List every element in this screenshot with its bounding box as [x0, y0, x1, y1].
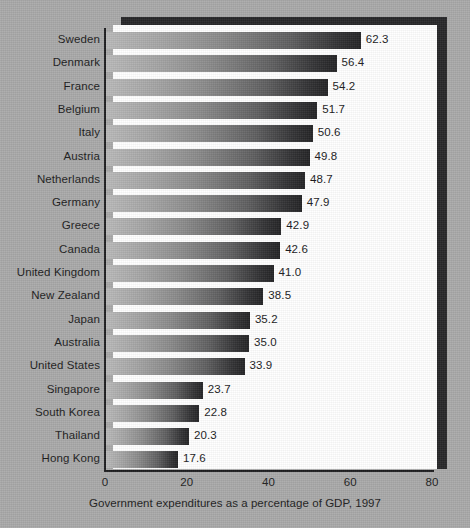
bar-value-label: 20.3: [194, 429, 217, 441]
bar: [106, 102, 317, 119]
bar-row: United States33.9: [0, 355, 470, 379]
bar-value-label: 33.9: [250, 359, 273, 371]
bar-row: New Zealand38.5: [0, 285, 470, 309]
x-tick-label: 60: [344, 476, 357, 488]
category-label: Japan: [0, 313, 100, 325]
bar-value-label: 62.3: [366, 33, 389, 45]
bar-value-label: 47.9: [307, 196, 330, 208]
x-tick-label: 20: [180, 476, 193, 488]
bar-value-label: 17.6: [183, 452, 206, 464]
bar-value-label: 41.0: [279, 266, 302, 278]
bar-value-label: 23.7: [208, 383, 231, 395]
bar: [106, 358, 245, 375]
category-label: South Korea: [0, 406, 100, 418]
bar-row: Sweden62.3: [0, 29, 470, 53]
category-label: Belgium: [0, 103, 100, 115]
bar-row: Hong Kong17.6: [0, 448, 470, 472]
bar-value-label: 22.8: [204, 406, 227, 418]
bar-row: Germany47.9: [0, 192, 470, 216]
bar-value-label: 49.8: [315, 150, 338, 162]
y-axis-line: [104, 28, 106, 472]
category-label: France: [0, 80, 100, 92]
bar-row: Italy50.6: [0, 122, 470, 146]
bar-value-label: 35.2: [255, 313, 278, 325]
bar-value-label: 50.6: [318, 126, 341, 138]
bar: [106, 242, 280, 259]
bar-row: Netherlands48.7: [0, 169, 470, 193]
category-label: Germany: [0, 196, 100, 208]
bar: [106, 382, 203, 399]
bar-value-label: 42.6: [285, 243, 308, 255]
bar-value-label: 42.9: [286, 219, 309, 231]
bar: [106, 288, 263, 305]
bar: [106, 218, 281, 235]
bar-row: Australia35.0: [0, 332, 470, 356]
bar-value-label: 35.0: [254, 336, 277, 348]
bar: [106, 405, 199, 422]
x-tick-label: 0: [102, 476, 108, 488]
bar-row: Greece42.9: [0, 215, 470, 239]
x-tick-label: 40: [262, 476, 275, 488]
bar-row: Belgium51.7: [0, 99, 470, 123]
bar: [106, 149, 310, 166]
bar: [106, 312, 250, 329]
bar-row: Thailand20.3: [0, 425, 470, 449]
bar: [106, 79, 328, 96]
bar: [106, 428, 189, 445]
bar-row: Denmark56.4: [0, 52, 470, 76]
bar-row: Canada42.6: [0, 239, 470, 263]
category-label: Australia: [0, 336, 100, 348]
bar-row: France54.2: [0, 76, 470, 100]
bar: [106, 265, 274, 282]
bar-row: Singapore23.7: [0, 379, 470, 403]
bar-value-label: 51.7: [322, 103, 345, 115]
category-label: Greece: [0, 219, 100, 231]
bar: [106, 195, 302, 212]
bar: [106, 451, 178, 468]
bar: [106, 125, 313, 142]
category-label: Sweden: [0, 33, 100, 45]
category-label: United Kingdom: [0, 266, 100, 278]
category-label: Thailand: [0, 429, 100, 441]
category-label: Italy: [0, 126, 100, 138]
category-label: New Zealand: [0, 289, 100, 301]
category-label: United States: [0, 359, 100, 371]
category-label: Denmark: [0, 56, 100, 68]
bar-value-label: 38.5: [268, 289, 291, 301]
bar: [106, 172, 305, 189]
x-axis-caption: Government expenditures as a percentage …: [0, 497, 470, 509]
bar-value-label: 48.7: [310, 173, 333, 185]
category-label: Hong Kong: [0, 452, 100, 464]
category-label: Netherlands: [0, 173, 100, 185]
bar-row: Austria49.8: [0, 146, 470, 170]
bar-value-label: 54.2: [333, 80, 356, 92]
bar: [106, 32, 361, 49]
bar-row: United Kingdom41.0: [0, 262, 470, 286]
bar-row: South Korea22.8: [0, 402, 470, 426]
bar: [106, 335, 249, 352]
bar: [106, 55, 337, 72]
bar-chart-plot-area: Sweden62.3Denmark56.4France54.2Belgium51…: [0, 0, 470, 528]
bar-row: Japan35.2: [0, 309, 470, 333]
category-label: Canada: [0, 243, 100, 255]
x-axis-line: [104, 470, 434, 472]
category-label: Austria: [0, 150, 100, 162]
category-label: Singapore: [0, 383, 100, 395]
x-tick-label: 80: [426, 476, 439, 488]
bar-value-label: 56.4: [342, 56, 365, 68]
